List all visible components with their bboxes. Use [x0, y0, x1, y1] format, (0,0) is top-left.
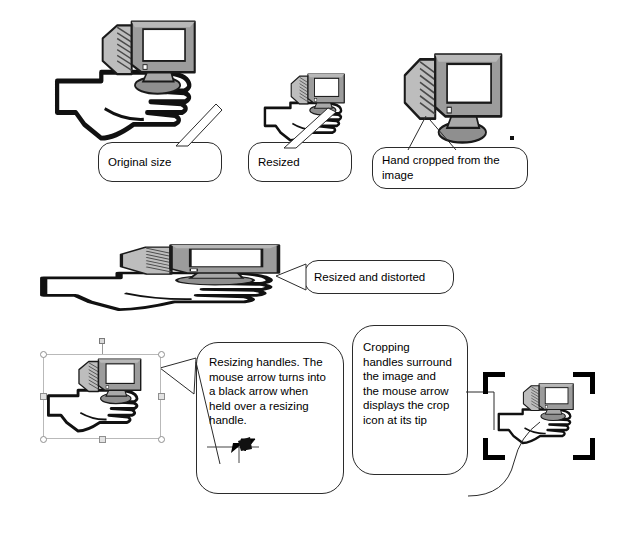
handle-top-left[interactable]: [40, 351, 47, 358]
callout-original-size-text: Original size: [108, 155, 171, 170]
handle-bottom-right[interactable]: [158, 436, 165, 443]
handle-bottom-center[interactable]: [99, 436, 106, 443]
handle-top-right[interactable]: [158, 351, 165, 358]
resize-selection-box[interactable]: [43, 354, 161, 439]
callout-resized-and-distorted-text: Resized and distorted: [314, 270, 425, 285]
handle-rotate[interactable]: [99, 338, 105, 344]
callout-hand-cropped-text: Hand cropped from the image: [382, 153, 518, 182]
handle-middle-left[interactable]: [40, 393, 47, 400]
callout-hand-cropped[interactable]: Hand cropped from the image: [372, 147, 528, 189]
illustration-canvas: Original size Resized Hand cropped from …: [0, 0, 624, 533]
callout-tail-cropped: [400, 116, 470, 152]
callout-resized-text: Resized: [258, 155, 300, 170]
callout-tail-resizing: [160, 352, 240, 472]
callout-tail-original: [56, 104, 236, 150]
crop-handle-bottom-right[interactable]: [483, 372, 595, 460]
cropped-image-dot: [510, 136, 514, 140]
handle-bottom-left[interactable]: [40, 436, 47, 443]
handle-middle-right[interactable]: [158, 393, 165, 400]
crop-bracket-frame[interactable]: [483, 372, 595, 460]
callout-resized-and-distorted[interactable]: Resized and distorted: [304, 260, 454, 294]
callout-cropping-handles-text: Cropping handles surround the image and …: [363, 340, 457, 427]
callout-tail-resized: [252, 108, 362, 150]
callout-cropping-handles[interactable]: Cropping handles surround the image and …: [352, 325, 468, 475]
callout-tail-distorted: [276, 262, 310, 294]
